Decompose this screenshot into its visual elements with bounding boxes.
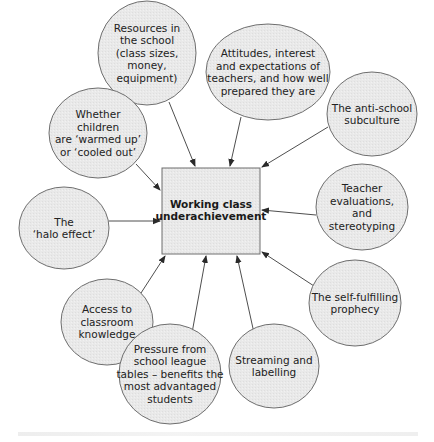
node-label-line: school league <box>134 355 207 367</box>
node-label-line: Attitudes, interest <box>221 47 315 59</box>
node-label-line: teachers, and how well <box>207 72 328 84</box>
node-label-line: or ‘cooled out’ <box>60 146 136 158</box>
node-label-line: ‘halo effect’ <box>33 228 96 240</box>
arrow-access <box>141 256 165 293</box>
node-label-line: tables – benefits the <box>117 368 224 380</box>
node-label-line: students <box>147 393 193 405</box>
center-node: Working classunderachievement <box>156 168 267 254</box>
arrow-warmed-up <box>136 164 160 190</box>
node-label-line: stereotyping <box>329 220 395 232</box>
node-label-line: Resources in <box>114 22 181 34</box>
arrow-anti-school <box>262 127 328 167</box>
node-label-line: labelling <box>252 366 297 378</box>
node-label-line: most advantaged <box>124 380 216 392</box>
node-label-line: are ‘warmed up’ <box>55 133 141 145</box>
node-label-line: Whether <box>75 108 121 120</box>
node-label-line: Streaming and <box>235 354 312 366</box>
arrow-attitudes <box>230 117 241 166</box>
node-label-line: Pressure from <box>134 343 207 355</box>
node-label-line: subculture <box>344 114 399 126</box>
node-label-line: evaluations, <box>330 195 394 207</box>
node-label-line: The anti-school <box>331 102 412 114</box>
concept-diagram: Resources inthe school(class sizes,money… <box>0 0 434 442</box>
node-label-line: prepared they are <box>221 85 316 97</box>
node-resources: Resources inthe school(class sizes,money… <box>98 1 196 105</box>
node-teacher-evaluations: Teacherevaluations,andstereotyping <box>316 164 408 250</box>
node-label-line: knowledge <box>79 328 136 340</box>
node-anti-school: The anti-schoolsubculture <box>327 72 417 156</box>
node-label-line: and <box>352 207 372 219</box>
node-halo: The‘halo effect’ <box>19 187 109 269</box>
node-label-line: The <box>53 216 74 228</box>
node-label-line: The self-fulfilling <box>311 291 399 303</box>
node-label-line: prophecy <box>331 303 380 315</box>
node-label-line: money, <box>127 59 166 71</box>
node-warmed-up: Whetherchildrenare ‘warmed up’or ‘cooled… <box>49 88 147 178</box>
arrow-resources <box>169 102 195 166</box>
node-label-line: classroom <box>80 316 133 328</box>
node-label-line: the school <box>120 34 174 46</box>
caption-cutoff <box>18 432 418 436</box>
node-self-fulfilling: The self-fulfillingprophecy <box>309 260 401 346</box>
node-label-line: children <box>77 121 119 133</box>
arrow-streaming <box>237 256 254 333</box>
node-label-line: (class sizes, <box>116 47 179 59</box>
arrow-self-fulfilling <box>262 252 314 286</box>
node-attitudes: Attitudes, interestand expectations ofte… <box>206 24 330 120</box>
arrow-teacher-evaluations <box>262 210 316 215</box>
center-label-line: Working class <box>170 198 252 210</box>
node-label-line: Access to <box>82 303 132 315</box>
node-label-line: and expectations of <box>216 60 320 72</box>
center-label-line: underachievement <box>156 210 267 222</box>
node-streaming: Streaming andlabelling <box>229 324 319 408</box>
node-label-line: Teacher <box>341 182 383 194</box>
node-label-line: equipment) <box>117 72 178 84</box>
